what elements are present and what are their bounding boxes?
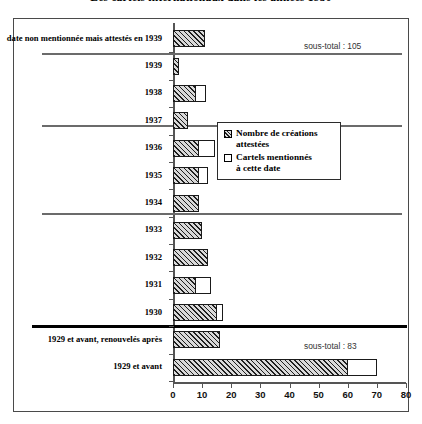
y-tick <box>169 244 174 245</box>
bar-creations-attestees <box>173 222 202 239</box>
x-tick-label: 60 <box>335 389 361 400</box>
x-tick <box>406 383 407 388</box>
plot-area: 01020304050607080 date non mentionnée ma… <box>14 19 408 411</box>
category-label: 1929 et avant, renouvelés après <box>48 335 162 344</box>
category-label: 1939 <box>145 61 162 70</box>
x-tick <box>377 383 378 388</box>
bar-creations-attestees <box>173 140 199 157</box>
category-label: date non mentionnée mais attestés en 193… <box>7 34 162 43</box>
bar-creations-attestees <box>173 304 217 321</box>
bar-creations-attestees <box>173 167 199 184</box>
bar-creations-attestees <box>173 58 179 75</box>
chart-legend: Nombre de créations attestées Cartels me… <box>217 122 341 180</box>
x-tick-label: 0 <box>160 389 186 400</box>
legend-swatch-outline-icon <box>224 154 232 162</box>
y-tick <box>169 80 174 81</box>
x-tick <box>231 383 232 388</box>
legend-item-creations: Nombre de créations attestées <box>224 128 334 149</box>
section-separator-1 <box>42 53 402 55</box>
section-separator-3 <box>42 213 402 215</box>
y-tick <box>169 271 174 272</box>
x-tick-label: 40 <box>277 389 303 400</box>
subtotal-top: sous-total : 105 <box>304 41 361 51</box>
category-label: 1930 <box>145 308 162 317</box>
legend-label-creations: Nombre de créations attestées <box>236 128 317 149</box>
category-label: 1934 <box>145 198 162 207</box>
legend-label-creations-line2: attestées <box>236 139 269 149</box>
bar-creations-attestees <box>173 112 188 129</box>
y-tick <box>169 299 174 300</box>
subtotal-bottom: sous-total : 83 <box>304 341 357 351</box>
x-tick <box>290 383 291 388</box>
legend-label-creations-line1: Nombre de créations <box>236 128 317 138</box>
legend-label-cartels: Cartels mentionnés à cette date <box>236 152 312 173</box>
bar-creations-attestees <box>173 195 199 212</box>
y-tick <box>169 354 174 355</box>
y-tick <box>169 162 174 163</box>
y-tick <box>169 189 174 190</box>
category-label: 1933 <box>145 225 162 234</box>
bar-creations-attestees <box>173 249 208 266</box>
bar-creations-attestees <box>173 85 196 102</box>
legend-label-cartels-line1: Cartels mentionnés <box>236 152 312 162</box>
category-label: 1937 <box>145 116 162 125</box>
category-label: 1931 <box>145 280 162 289</box>
y-tick <box>169 326 174 327</box>
bar-creations-attestees <box>173 331 220 348</box>
chart-frame: 01020304050607080 date non mentionnée ma… <box>13 18 409 412</box>
category-label: 1936 <box>145 143 162 152</box>
y-tick <box>169 52 174 53</box>
chart-title: Les cartels internationaux dans les anné… <box>0 0 422 3</box>
category-label: 1938 <box>145 88 162 97</box>
legend-swatch-hatched-icon <box>224 130 232 138</box>
category-label: 1929 et avant <box>113 362 162 371</box>
bar-creations-attestees <box>173 30 205 47</box>
x-tick <box>319 383 320 388</box>
x-tick-label: 30 <box>247 389 273 400</box>
x-tick-label: 50 <box>306 389 332 400</box>
x-tick <box>348 383 349 388</box>
category-label: 1935 <box>145 171 162 180</box>
x-tick <box>173 383 174 388</box>
y-tick <box>169 217 174 218</box>
bar-creations-attestees <box>173 277 196 294</box>
legend-item-cartels: Cartels mentionnés à cette date <box>224 152 334 173</box>
x-tick <box>260 383 261 388</box>
section-separator-major <box>32 325 407 328</box>
x-tick-label: 20 <box>218 389 244 400</box>
bar-creations-attestees <box>173 359 348 376</box>
x-tick-label: 80 <box>393 389 419 400</box>
legend-label-cartels-line2: à cette date <box>236 163 280 173</box>
x-tick <box>202 383 203 388</box>
x-tick-label: 10 <box>189 389 215 400</box>
y-tick <box>169 381 174 382</box>
y-tick <box>169 107 174 108</box>
x-tick-label: 70 <box>364 389 390 400</box>
category-label: 1932 <box>145 253 162 262</box>
y-tick <box>169 135 174 136</box>
